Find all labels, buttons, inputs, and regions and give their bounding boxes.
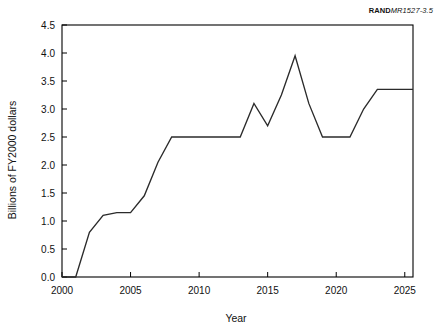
- data-line: [62, 56, 413, 277]
- x-axis-title: Year: [225, 312, 247, 324]
- x-tick-label: 2020: [325, 285, 348, 296]
- line-chart: 0.00.51.01.52.02.53.03.54.04.5 200020052…: [0, 0, 441, 334]
- x-tick-label: 2000: [51, 285, 74, 296]
- plot-frame: [62, 25, 413, 277]
- x-tick-label: 2010: [188, 285, 211, 296]
- y-tick-label: 4.5: [41, 20, 55, 31]
- y-axis-title: Billions of FY2000 dollars: [6, 101, 18, 219]
- y-tick-label: 4.0: [41, 48, 55, 59]
- source-reference: MR1527-3.5: [391, 6, 433, 15]
- x-tick-label: 2025: [394, 285, 417, 296]
- y-tick-label: 2.0: [41, 160, 55, 171]
- y-tick-label: 1.5: [41, 188, 55, 199]
- y-tick-label: 0.5: [41, 244, 55, 255]
- x-axis-ticks: 200020052010201520202025: [51, 272, 416, 296]
- x-tick-label: 2005: [119, 285, 142, 296]
- y-tick-label: 0.0: [41, 272, 55, 283]
- y-axis-ticks: 0.00.51.01.52.02.53.03.54.04.5: [41, 20, 67, 283]
- source-brand: RAND: [369, 6, 391, 15]
- chart-figure: RANDMR1527-3.5 0.00.51.01.52.02.53.03.54…: [0, 0, 441, 334]
- x-tick-label: 2015: [257, 285, 280, 296]
- plot-border: [62, 25, 413, 277]
- y-tick-label: 1.0: [41, 216, 55, 227]
- y-tick-label: 2.5: [41, 132, 55, 143]
- y-tick-label: 3.5: [41, 76, 55, 87]
- data-series-group: [62, 56, 413, 277]
- y-tick-label: 3.0: [41, 104, 55, 115]
- source-tag: RANDMR1527-3.5: [369, 6, 433, 15]
